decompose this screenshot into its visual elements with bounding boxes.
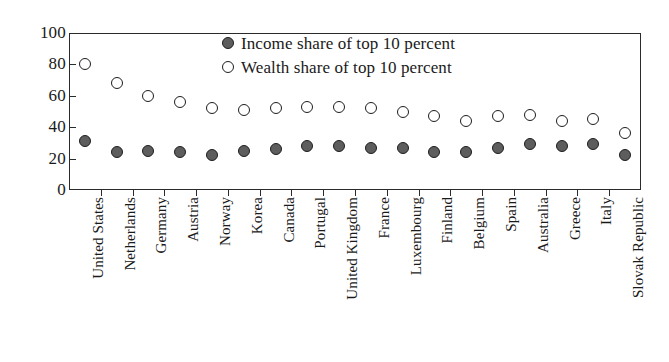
x-tick-mark xyxy=(577,190,578,196)
x-tick-label: Finland xyxy=(440,197,455,244)
data-point-income xyxy=(397,142,409,154)
x-tick-mark xyxy=(387,190,388,196)
x-tick-mark xyxy=(260,190,261,196)
chart-legend: Income share of top 10 percent Wealth sh… xyxy=(222,31,552,79)
x-tick-label: Netherlands xyxy=(123,197,138,271)
data-point-wealth xyxy=(397,106,409,118)
x-tick-mark xyxy=(419,190,420,196)
x-tick-label: Norway xyxy=(218,197,233,246)
x-tick-mark xyxy=(133,190,134,196)
legend-label-wealth: Wealth share of top 10 percent xyxy=(241,58,452,77)
y-tick-label: 0 xyxy=(26,181,66,198)
data-point-wealth xyxy=(333,101,345,113)
data-point-wealth xyxy=(111,77,123,89)
x-tick-mark xyxy=(291,190,292,196)
x-tick-label: Austria xyxy=(186,197,201,242)
y-tick-label: 100 xyxy=(26,24,66,41)
x-tick-label: Luxembourg xyxy=(409,197,424,275)
filled-circle-icon xyxy=(222,37,234,49)
x-tick-mark xyxy=(482,190,483,196)
x-tick-mark xyxy=(228,190,229,196)
legend-item-wealth[interactable]: Wealth share of top 10 percent xyxy=(222,55,552,79)
legend-label-income: Income share of top 10 percent xyxy=(241,34,455,53)
x-tick-label: United States xyxy=(91,197,106,279)
y-tick-label: 80 xyxy=(26,55,66,72)
data-point-wealth xyxy=(238,104,250,116)
x-tick-mark xyxy=(609,190,610,196)
x-tick-label: Germany xyxy=(154,197,169,254)
y-tick-label: 40 xyxy=(26,118,66,135)
y-tick-label: 60 xyxy=(26,87,66,104)
data-point-income xyxy=(238,145,250,157)
x-tick-label: Belgium xyxy=(472,197,487,249)
data-point-income xyxy=(111,146,123,158)
y-axis: 020406080100 xyxy=(20,0,66,362)
x-tick-label: Slovak Republic xyxy=(631,197,646,298)
x-tick-mark xyxy=(514,190,515,196)
data-point-wealth xyxy=(556,115,568,127)
x-tick-label: Australia xyxy=(536,197,551,253)
y-tick-mark xyxy=(69,64,76,65)
y-tick-mark xyxy=(69,127,76,128)
x-tick-mark xyxy=(196,190,197,196)
y-tick-label: 20 xyxy=(26,150,66,167)
chart-figure: 020406080100 United StatesNetherlandsGer… xyxy=(0,0,669,362)
y-tick-mark xyxy=(69,159,76,160)
x-tick-mark xyxy=(450,190,451,196)
x-tick-mark xyxy=(101,190,102,196)
x-tick-mark xyxy=(546,190,547,196)
data-point-income xyxy=(365,142,377,154)
open-circle-icon xyxy=(222,61,234,73)
data-point-income xyxy=(492,142,504,154)
x-tick-label: France xyxy=(377,197,392,238)
data-point-income xyxy=(556,140,568,152)
legend-item-income[interactable]: Income share of top 10 percent xyxy=(222,31,552,55)
data-point-income xyxy=(270,143,282,155)
x-tick-mark xyxy=(164,190,165,196)
data-point-wealth xyxy=(524,109,536,121)
x-tick-mark xyxy=(323,190,324,196)
x-tick-label: Canada xyxy=(282,197,297,243)
x-tick-label: Italy xyxy=(599,197,614,225)
y-tick-mark xyxy=(69,96,76,97)
x-tick-label: United Kingdom xyxy=(345,197,360,300)
data-point-wealth xyxy=(270,102,282,114)
x-tick-label: Korea xyxy=(250,197,265,234)
x-tick-label: Spain xyxy=(504,197,519,232)
x-tick-label: Portugal xyxy=(313,197,328,249)
x-tick-label: Greece xyxy=(568,197,583,240)
x-tick-mark xyxy=(355,190,356,196)
